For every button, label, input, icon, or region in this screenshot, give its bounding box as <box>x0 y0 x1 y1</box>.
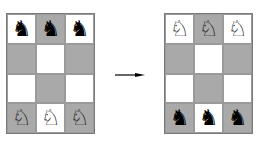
black-knight-icon: ♞ <box>41 18 61 40</box>
square-b4: ♘ <box>194 14 223 44</box>
square-a3 <box>7 44 36 74</box>
square-c2 <box>223 74 252 104</box>
black-knight-icon: ♞ <box>170 107 190 129</box>
square-a2 <box>7 74 36 104</box>
white-knight-icon: ♘ <box>41 107 61 129</box>
white-knight-icon: ♘ <box>228 18 248 40</box>
black-knight-icon: ♞ <box>228 107 248 129</box>
arrow-right-icon <box>115 73 145 77</box>
square-c3 <box>223 44 252 74</box>
square-a1: ♞ <box>165 103 194 133</box>
square-a4: ♞ <box>7 14 36 44</box>
square-b4: ♞ <box>36 14 65 44</box>
white-knight-icon: ♘ <box>199 18 219 40</box>
goal-board: ♘ ♘ ♘ ♞ ♞ ♞ <box>164 13 253 134</box>
square-b1: ♞ <box>194 103 223 133</box>
white-knight-icon: ♘ <box>12 107 32 129</box>
square-b2 <box>194 74 223 104</box>
square-a3 <box>165 44 194 74</box>
square-c2 <box>65 74 94 104</box>
square-b3 <box>36 44 65 74</box>
square-b2 <box>36 74 65 104</box>
black-knight-icon: ♞ <box>199 107 219 129</box>
square-c1: ♞ <box>223 103 252 133</box>
square-c4: ♞ <box>65 14 94 44</box>
square-a1: ♘ <box>7 103 36 133</box>
square-a2 <box>165 74 194 104</box>
start-board: ♞ ♞ ♞ ♘ ♘ ♘ <box>6 13 95 134</box>
square-a4: ♘ <box>165 14 194 44</box>
square-c3 <box>65 44 94 74</box>
square-b1: ♘ <box>36 103 65 133</box>
square-b3 <box>194 44 223 74</box>
square-c1: ♘ <box>65 103 94 133</box>
white-knight-icon: ♘ <box>70 107 90 129</box>
white-knight-icon: ♘ <box>170 18 190 40</box>
square-c4: ♘ <box>223 14 252 44</box>
black-knight-icon: ♞ <box>70 18 90 40</box>
black-knight-icon: ♞ <box>12 18 32 40</box>
